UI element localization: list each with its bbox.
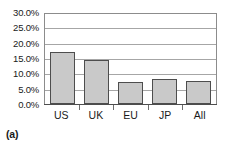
x-tick-label-eu: EU [113, 108, 148, 124]
bar-chart: 0.0%5.0%10.0%15.0%20.0%25.0%30.0% USUKEU… [0, 0, 228, 126]
x-axis-labels: USUKEUJPAll [44, 108, 217, 124]
bar-slot [148, 14, 182, 104]
bar-eu [118, 82, 143, 104]
bar-slot [182, 14, 216, 104]
y-tick-label: 15.0% [13, 54, 39, 64]
x-tick-label-all: All [182, 108, 217, 124]
y-axis: 0.0%5.0%10.0%15.0%20.0%25.0%30.0% [0, 0, 42, 126]
y-tick-label: 0.0% [18, 100, 39, 110]
y-tick-label: 25.0% [13, 23, 39, 33]
y-tick-label: 20.0% [13, 39, 39, 49]
bar-slot [79, 14, 113, 104]
bar-us [50, 52, 75, 104]
bar-series [45, 14, 216, 104]
bar-slot [113, 14, 147, 104]
x-tick-label-us: US [44, 108, 79, 124]
bar-slot [45, 14, 79, 104]
x-tick-label-jp: JP [148, 108, 183, 124]
y-tick-label: 5.0% [18, 85, 39, 95]
x-tick-label-uk: UK [79, 108, 114, 124]
y-tick-label: 30.0% [13, 8, 39, 18]
figure-caption: (a) [6, 128, 18, 140]
figure-panel-a: 0.0%5.0%10.0%15.0%20.0%25.0%30.0% USUKEU… [0, 0, 228, 148]
plot-area [44, 13, 217, 105]
bar-uk [84, 60, 109, 104]
bar-all [186, 81, 211, 104]
bar-jp [152, 79, 177, 104]
y-tick-label: 10.0% [13, 69, 39, 79]
